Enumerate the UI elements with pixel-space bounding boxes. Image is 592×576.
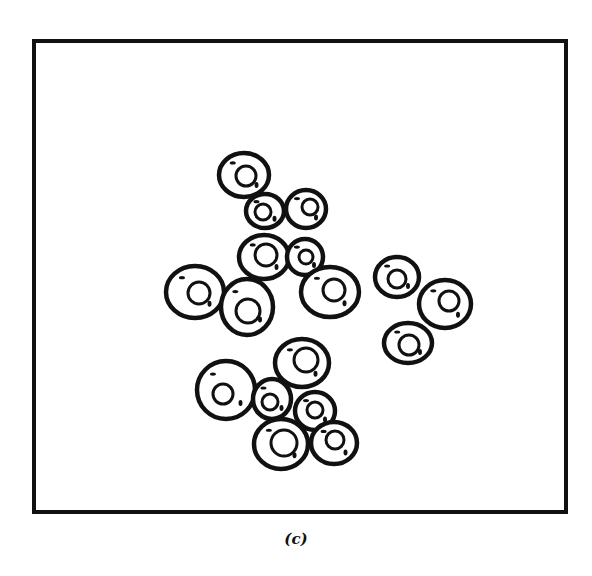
granule [260, 386, 266, 389]
cell-wall [419, 280, 471, 328]
cell-wall [253, 379, 291, 419]
cell-wall [384, 323, 432, 363]
cell-wall [301, 267, 359, 317]
cell [239, 235, 289, 279]
granule [255, 182, 259, 188]
cell-wall [239, 235, 289, 279]
cell [384, 323, 432, 363]
granule [293, 452, 297, 458]
granule [430, 289, 436, 292]
granule [258, 317, 262, 323]
granule [275, 264, 279, 270]
cell [166, 266, 224, 318]
cell-wall [219, 153, 269, 197]
micrograph-figure [0, 0, 592, 576]
cell [419, 280, 471, 328]
granule [230, 161, 236, 164]
granule [343, 300, 347, 306]
granule [179, 276, 185, 279]
cell [219, 153, 269, 197]
granule [394, 330, 400, 333]
granule [303, 399, 309, 402]
granule [314, 371, 318, 377]
cell [286, 190, 326, 228]
cell-wall [221, 279, 273, 335]
granule [266, 429, 272, 432]
cell-cluster [166, 153, 471, 469]
cell [275, 339, 329, 387]
granule [239, 400, 243, 406]
granule [406, 283, 410, 289]
granule [294, 246, 300, 249]
cell-wall [375, 257, 419, 297]
granule [314, 215, 318, 221]
granule [384, 264, 390, 267]
granule [314, 277, 320, 280]
granule [344, 449, 348, 455]
granule [294, 197, 300, 200]
cell-wall [254, 419, 308, 469]
cell [253, 379, 291, 419]
cell-wall [197, 361, 255, 419]
cell [246, 194, 284, 228]
granule [253, 200, 259, 203]
granule [456, 312, 460, 318]
granule [418, 349, 422, 355]
granule [280, 405, 284, 411]
granule [312, 262, 316, 268]
granule [287, 348, 293, 351]
cell-wall [166, 266, 224, 318]
cell [375, 257, 419, 297]
granule [321, 430, 327, 433]
cell-wall [246, 194, 284, 228]
figure-caption: (c) [0, 530, 592, 548]
cell [254, 419, 308, 469]
cell-wall [286, 190, 326, 228]
cell [221, 279, 273, 335]
cell-wall [311, 422, 357, 464]
cell [311, 422, 357, 464]
cell [301, 267, 359, 317]
granule [208, 301, 212, 307]
granule [273, 216, 277, 222]
granule [210, 372, 216, 375]
granule [250, 243, 256, 246]
cell-wall [275, 339, 329, 387]
granule [232, 290, 238, 293]
cell [197, 361, 255, 419]
